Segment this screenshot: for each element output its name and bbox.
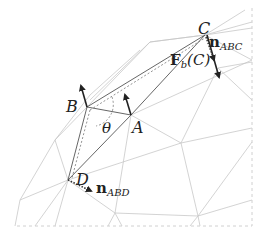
vertex-label-d: D bbox=[75, 170, 89, 189]
force-label: Fb(C) bbox=[170, 51, 210, 70]
mesh-diagram: C B A D θ Fb(C) nABC nABD bbox=[0, 0, 267, 241]
vertex-label-a: A bbox=[130, 118, 144, 137]
angle-label: θ bbox=[102, 119, 111, 137]
normal-abd-label: nABD bbox=[96, 179, 130, 198]
vertex-label-b: B bbox=[65, 97, 78, 116]
normal-at-a-arrow bbox=[125, 95, 131, 115]
normal-at-b-arrow bbox=[81, 86, 87, 107]
normal-abc-label: nABC bbox=[209, 33, 243, 52]
labels: C B A D θ Fb(C) nABC nABD bbox=[65, 19, 243, 198]
